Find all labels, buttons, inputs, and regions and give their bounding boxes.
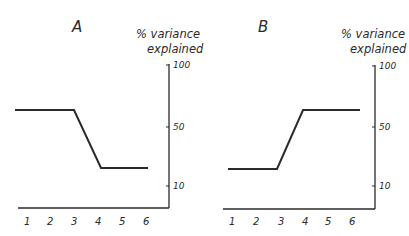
y-tick-label-50-a: 50 bbox=[173, 122, 185, 132]
y-axis-label-line2-a: explained bbox=[147, 42, 204, 56]
figure: A % variance explained 100 50 10 1 2 3 4… bbox=[0, 0, 409, 236]
y-tick-label-100-a: 100 bbox=[173, 60, 190, 70]
x-tick-label-6-b: 6 bbox=[349, 216, 355, 227]
data-line-a bbox=[15, 110, 148, 168]
panel-label-b: B bbox=[258, 18, 268, 36]
y-tick-label-50-b: 50 bbox=[379, 122, 391, 132]
x-tick-label-5-b: 5 bbox=[325, 216, 331, 227]
x-tick-label-4-b: 4 bbox=[302, 216, 308, 227]
x-tick-label-3-a: 3 bbox=[71, 216, 77, 227]
data-line-b bbox=[228, 110, 360, 169]
y-axis-label-line2-b: explained bbox=[350, 42, 407, 56]
y-tick-label-10-a: 10 bbox=[173, 181, 185, 191]
x-tick-label-4-a: 4 bbox=[95, 216, 101, 227]
x-tick-label-2-b: 2 bbox=[253, 216, 259, 227]
x-tick-label-1-a: 1 bbox=[24, 216, 30, 227]
y-axis-label-line1-a: % variance bbox=[136, 27, 200, 41]
x-tick-label-6-a: 6 bbox=[143, 216, 149, 227]
x-tick-label-3-b: 3 bbox=[278, 216, 284, 227]
x-tick-label-5-a: 5 bbox=[119, 216, 125, 227]
y-axis-label-line1-b: % variance bbox=[341, 27, 405, 41]
y-tick-label-10-b: 10 bbox=[379, 181, 391, 191]
panel-label-a: A bbox=[71, 18, 82, 36]
x-tick-label-2-a: 2 bbox=[47, 216, 53, 227]
chart-a: A % variance explained 100 50 10 1 2 3 4… bbox=[15, 18, 204, 227]
x-tick-label-1-b: 1 bbox=[229, 216, 235, 227]
chart-b: B % variance explained 100 50 10 1 2 3 4… bbox=[223, 18, 407, 227]
y-tick-label-100-b: 100 bbox=[379, 61, 396, 71]
